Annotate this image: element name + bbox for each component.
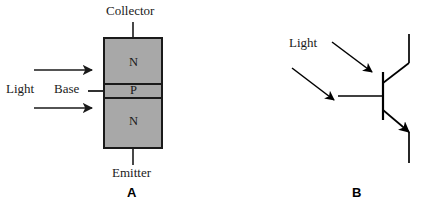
light-label-panel-b: Light	[289, 36, 317, 49]
collector-diagonal	[383, 63, 409, 83]
panel-b-letter: B	[352, 186, 361, 199]
light-label-panel-a: Light	[6, 82, 34, 95]
panel-b-graphics	[292, 34, 409, 163]
collector-label: Collector	[106, 4, 154, 17]
light-ray-lower-b	[292, 68, 334, 100]
emitter-diagonal-arrow	[383, 110, 409, 132]
figure-vector-layer	[0, 0, 425, 211]
panel-a-letter: A	[127, 186, 136, 199]
base-region-layer-label: P	[130, 84, 137, 97]
phototransistor-figure: Collector Emitter Base Light N P N A Lig…	[0, 0, 425, 211]
base-label: Base	[54, 82, 79, 95]
emitter-region-layer-label: N	[129, 115, 138, 128]
emitter-label: Emitter	[112, 166, 151, 179]
collector-region-layer-label: N	[129, 56, 138, 69]
light-ray-upper-b	[332, 42, 372, 72]
